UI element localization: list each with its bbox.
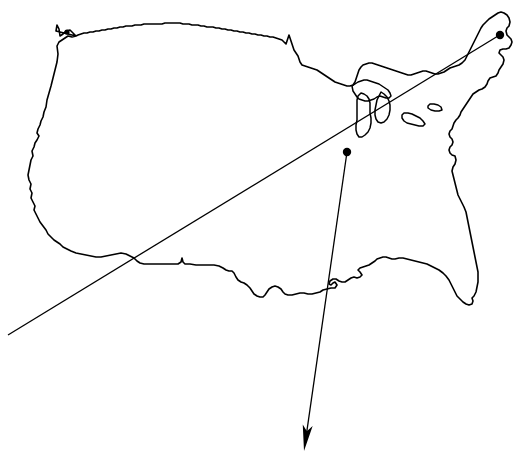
map-figure [0, 0, 532, 464]
marker-northwest [64, 29, 69, 34]
map-canvas [0, 0, 532, 464]
marker-northeast [496, 31, 504, 39]
map-background [0, 0, 532, 464]
marker-midwest [343, 148, 351, 156]
